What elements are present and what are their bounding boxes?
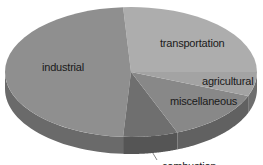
pie-chart: transportation industrial agricultural m…	[0, 0, 263, 165]
label-miscellaneous: miscellaneous	[170, 95, 238, 107]
label-transportation: transportation	[160, 37, 225, 49]
label-agricultural: agricultural	[202, 75, 253, 87]
label-industrial: industrial	[42, 61, 84, 73]
label-combustion: combustion	[162, 160, 216, 165]
